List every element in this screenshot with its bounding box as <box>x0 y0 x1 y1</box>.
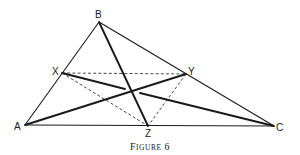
label-Z: Z <box>145 128 151 139</box>
figure-caption: FIGURE6 <box>130 141 170 152</box>
caption-smallcaps: IGURE <box>136 143 161 152</box>
label-A: A <box>14 121 21 132</box>
label-X: X <box>52 66 59 77</box>
label-C: C <box>276 122 283 133</box>
cevians <box>25 22 274 126</box>
triangle-diagram: B X Y A Z C FIGURE6 <box>0 0 300 155</box>
caption-number: 6 <box>164 141 170 152</box>
cevian-XC-part1 <box>62 73 125 89</box>
label-Y: Y <box>188 66 195 77</box>
label-B: B <box>95 9 102 20</box>
side-AC <box>25 125 274 126</box>
cevian-AY <box>25 74 186 125</box>
